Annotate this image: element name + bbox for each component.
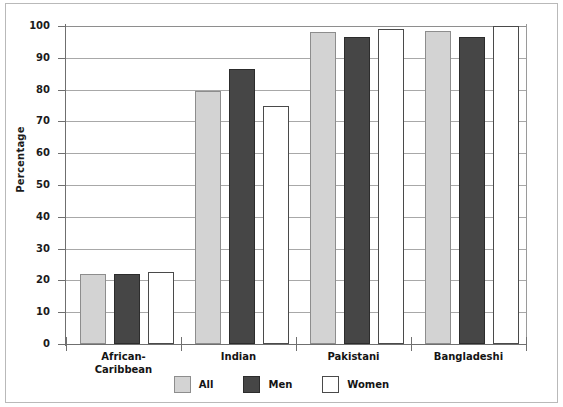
category-separator: [66, 337, 67, 351]
bar-african-caribbean-women: [148, 272, 174, 344]
bar-indian-men: [229, 69, 255, 344]
gridline: [66, 217, 526, 218]
legend-swatch-all: [174, 376, 191, 393]
bar-african-caribbean-all: [80, 274, 106, 344]
y-axis-tick: [58, 249, 65, 250]
y-axis-tick: [58, 90, 65, 91]
category-separator: [411, 337, 412, 351]
category-separator: [181, 337, 182, 351]
bar-bangladeshi-all: [425, 31, 451, 344]
bar-indian-all: [195, 91, 221, 344]
chart-figure: Percentage 0102030405060708090100 Africa…: [5, 3, 558, 403]
y-axis-tick-label: 100: [10, 20, 50, 31]
y-axis-tick-label: 10: [10, 306, 50, 317]
gridline: [66, 58, 526, 59]
category-separator: [296, 337, 297, 351]
bar-bangladeshi-men: [459, 37, 485, 344]
category-label-line: Caribbean: [66, 363, 181, 376]
category-label-line: Bangladeshi: [411, 350, 526, 363]
category-label-line: African-: [66, 350, 181, 363]
y-axis-tick: [58, 121, 65, 122]
y-axis-tick-label: 0: [10, 338, 50, 349]
legend-item-all[interactable]: All: [174, 376, 214, 393]
y-axis-tick: [58, 26, 65, 27]
y-axis-tick-label: 50: [10, 179, 50, 190]
y-axis-tick: [58, 58, 65, 59]
gridline: [66, 121, 526, 122]
y-axis-tick: [58, 280, 65, 281]
plot-area: [66, 26, 526, 344]
category-label-bangladeshi: Bangladeshi: [411, 350, 526, 363]
y-axis-tick: [58, 153, 65, 154]
legend-swatch-men: [243, 376, 260, 393]
gridline: [66, 26, 526, 27]
y-axis-tick: [58, 312, 65, 313]
legend-label: All: [199, 379, 214, 390]
category-label-pakistani: Pakistani: [296, 350, 411, 363]
category-separator: [526, 337, 527, 351]
y-axis-tick: [58, 344, 65, 345]
chart-legend: AllMenWomen: [6, 376, 557, 393]
plot-right-edge: [526, 24, 527, 345]
category-label-line: Pakistani: [296, 350, 411, 363]
bar-pakistani-all: [310, 32, 336, 344]
category-label-indian: Indian: [181, 350, 296, 363]
y-axis-tick-label: 80: [10, 84, 50, 95]
y-axis-tick: [58, 217, 65, 218]
legend-swatch-women: [322, 376, 339, 393]
legend-label: Men: [268, 379, 292, 390]
bar-bangladeshi-women: [493, 26, 519, 344]
legend-item-women[interactable]: Women: [322, 376, 389, 393]
gridline: [66, 249, 526, 250]
y-axis-tick-label: 20: [10, 274, 50, 285]
legend-item-men[interactable]: Men: [243, 376, 292, 393]
y-axis-tick-label: 70: [10, 115, 50, 126]
legend-label: Women: [347, 379, 389, 390]
y-axis-tick-label: 60: [10, 147, 50, 158]
gridline: [66, 153, 526, 154]
gridline: [66, 90, 526, 91]
bar-indian-women: [263, 106, 289, 345]
gridline: [66, 185, 526, 186]
y-axis-tick: [58, 185, 65, 186]
bar-pakistani-men: [344, 37, 370, 344]
y-axis-tick-label: 30: [10, 243, 50, 254]
category-label-african-caribbean: African-Caribbean: [66, 350, 181, 376]
bar-pakistani-women: [378, 29, 404, 344]
category-label-line: Indian: [181, 350, 296, 363]
bar-african-caribbean-men: [114, 274, 140, 344]
y-axis-tick-label: 40: [10, 211, 50, 222]
y-axis-tick-label: 90: [10, 52, 50, 63]
